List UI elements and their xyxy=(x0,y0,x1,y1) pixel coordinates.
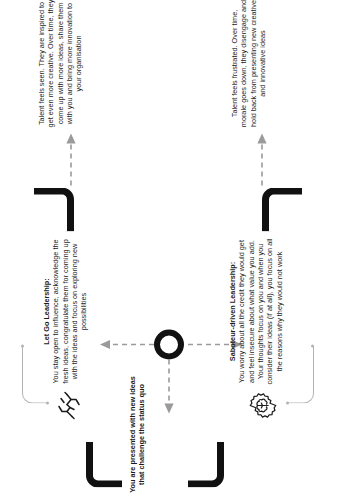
saboteur-outflow-elbow xyxy=(262,187,302,231)
letgo-bracket-dot-start xyxy=(46,401,49,404)
saboteur-outcome-text: Talent feels frustrated. Over time, mora… xyxy=(230,0,267,127)
saboteur-bracket-dot-end xyxy=(311,344,314,347)
saboteur-bracket-dot-start xyxy=(286,401,289,404)
saboteur-card-body: You worry about all the credit they woul… xyxy=(237,235,284,387)
trigger-text: You are presented with new ideas that ch… xyxy=(128,375,147,493)
letgo-card-text: Let Go Leadership: You stay open to infl… xyxy=(42,235,89,387)
saboteur-card-title: Saboteur-driven Leadership: xyxy=(228,235,237,387)
arrow-saboteur-to-outcome xyxy=(255,131,269,185)
arrow-center-to-letgo xyxy=(98,337,156,351)
arrow-center-to-trigger xyxy=(162,357,176,415)
diagram-canvas: You are presented with new ideas that ch… xyxy=(0,0,338,499)
trigger-elbow-down xyxy=(188,441,224,487)
saboteur-bracket xyxy=(288,345,314,403)
saboteur-card-text: Saboteur-driven Leadership: You worry ab… xyxy=(228,235,284,387)
handshake-letting-go-icon xyxy=(55,390,85,420)
arrow-letgo-to-outcome xyxy=(64,131,78,185)
brain-gear-icon xyxy=(248,390,278,420)
letgo-outflow-elbow xyxy=(34,187,74,231)
letgo-bracket-dot-end xyxy=(21,344,24,347)
decision-ring-icon xyxy=(154,329,184,359)
trigger-elbow-up xyxy=(86,441,122,487)
letgo-bracket xyxy=(22,345,48,403)
diagram-rotation-wrapper: You are presented with new ideas that ch… xyxy=(0,0,338,499)
letgo-card-body: You stay open to influence, acknowledge … xyxy=(51,235,88,387)
letgo-outcome-text: Talent feels seen. They are inspired to … xyxy=(37,0,84,127)
